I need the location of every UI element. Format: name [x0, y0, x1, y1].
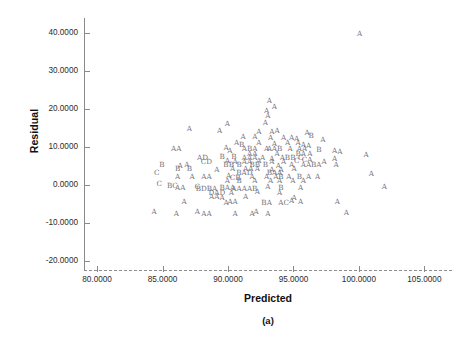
data-point-marker: A: [290, 177, 295, 184]
data-point-marker: A: [151, 208, 156, 215]
data-point-marker: C: [154, 169, 160, 176]
x-tick-label: 85.0000: [128, 275, 198, 284]
data-point-marker: A: [289, 197, 294, 204]
y-tick-label: 0.0000: [6, 180, 78, 189]
data-point-marker: A: [322, 158, 327, 165]
data-point-marker: AA: [201, 173, 211, 180]
data-point-marker: A: [217, 127, 222, 134]
y-tick-label: 30.0000: [6, 66, 78, 75]
data-point-marker: A: [265, 210, 270, 217]
data-point-marker: A: [255, 189, 260, 196]
x-tick-label: 95.0000: [258, 275, 328, 284]
data-point-marker: AC: [278, 199, 289, 206]
y-tick-label: 40.0000: [6, 28, 78, 37]
data-point-marker: B: [316, 147, 321, 154]
data-point-marker: A: [315, 174, 320, 181]
data-point-marker: AA: [227, 199, 237, 206]
x-axis-line: [84, 270, 452, 271]
plot-area: AAAAAAAAAAAAABAAAAAAAABAAAAAAAAAAABAAAAB…: [84, 18, 444, 270]
data-point-marker: A: [274, 127, 279, 134]
data-point-marker: A: [254, 209, 259, 216]
data-point-marker: B: [175, 165, 180, 172]
data-point-marker: A: [187, 126, 192, 133]
x-axis-title: Predicted: [84, 292, 452, 304]
data-point-marker: A: [263, 119, 268, 126]
y-axis-title: Residual: [28, 91, 40, 171]
y-tick-label: -20.0000: [6, 256, 78, 265]
data-point-marker: AA: [201, 211, 211, 218]
data-point-marker: A: [288, 146, 293, 153]
data-point-marker: A: [382, 184, 387, 191]
data-point-marker: A: [175, 174, 180, 181]
data-point-marker: B: [236, 161, 241, 168]
y-tick-label: 10.0000: [6, 142, 78, 151]
data-point-marker: A: [306, 174, 311, 181]
residual-plot-figure: 40.000030.000020.000010.00000.0000-10.00…: [0, 0, 458, 341]
data-point-marker: A: [320, 136, 325, 143]
data-point-marker: A: [344, 209, 349, 216]
data-point-marker: AA: [171, 146, 181, 153]
x-tick-label: 80.0000: [62, 275, 132, 284]
data-point-marker: A: [337, 149, 342, 156]
data-point-marker: A: [195, 209, 200, 216]
data-point-marker: B: [308, 132, 313, 139]
x-tick-label: 100.0000: [324, 275, 394, 284]
data-point-marker: A: [333, 162, 338, 169]
x-tick-label: 105.0000: [389, 275, 458, 284]
data-point-marker: A: [233, 210, 238, 217]
data-point-marker: A: [277, 189, 282, 196]
data-point-marker: A: [272, 103, 277, 110]
data-point-marker: A: [369, 170, 374, 177]
data-point-marker: A: [335, 199, 340, 206]
data-point-marker: A: [265, 184, 270, 191]
data-point-marker: CD: [201, 158, 212, 165]
y-tick-label: 20.0000: [6, 104, 78, 113]
data-point-marker: AABA: [301, 162, 322, 169]
figure-caption: (a): [84, 315, 452, 326]
data-point-marker: B: [159, 162, 164, 169]
data-point-marker: A: [214, 166, 219, 173]
data-point-marker: C: [157, 181, 163, 188]
data-point-marker: A: [225, 120, 230, 127]
data-point-marker: A: [298, 184, 303, 191]
data-point-marker: A: [189, 173, 194, 180]
data-point-marker: BA: [261, 199, 271, 206]
data-point-marker: A: [243, 194, 248, 201]
y-tick-label: -10.0000: [6, 218, 78, 227]
data-point-marker: A: [298, 199, 303, 206]
data-point-marker: AA: [209, 193, 219, 200]
data-point-marker: A: [255, 166, 260, 173]
data-point-marker: AA: [175, 184, 185, 191]
data-point-marker: A: [363, 151, 368, 158]
data-point-marker: A: [229, 190, 234, 197]
data-point-marker: A: [174, 210, 179, 217]
x-tick-label: 90.0000: [193, 275, 263, 284]
data-point-marker: A: [357, 30, 362, 37]
data-point-marker: AAAAB: [231, 185, 257, 192]
data-point-marker: A: [182, 199, 187, 206]
data-point-marker: A: [269, 158, 274, 165]
